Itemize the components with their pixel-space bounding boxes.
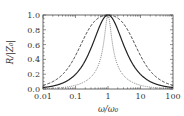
x-tick-label: 100 [165, 92, 180, 101]
y-tick-label: 0.2 [27, 70, 40, 79]
y-tick-label: 0.8 [27, 26, 40, 35]
curves [43, 15, 173, 89]
resonance-chart: 0.010.11101000.00.20.40.60.81.0 ω/ω₀ R/|… [0, 0, 184, 116]
curve-solid [43, 15, 173, 88]
y-tick-label: 1.0 [27, 11, 40, 20]
x-tick-label: 1 [105, 92, 110, 101]
curve-dashed [43, 15, 173, 85]
x-axis-label: ω/ω₀ [98, 104, 119, 114]
x-tick-label: 0.1 [69, 92, 82, 101]
y-tick-label: 0.6 [27, 41, 40, 50]
y-tick-label: 0.0 [27, 85, 40, 94]
plot-frame [43, 15, 173, 89]
x-tick-label: 10 [135, 92, 145, 101]
y-axis-label: R/|Z₀| [5, 40, 16, 65]
curve-dotted [43, 15, 173, 89]
y-tick-label: 0.4 [27, 55, 40, 64]
